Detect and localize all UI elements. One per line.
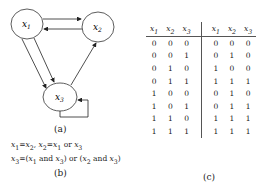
table-cell: 0 (240, 37, 256, 50)
table-cell: 1 (224, 50, 240, 63)
equation-line-2: x3=(x1 and x3) or (x2 and x3) (11, 154, 121, 165)
table-cell: 0 (240, 62, 256, 75)
header-left-x1: x1 (146, 22, 162, 37)
truth-table-container: x1 x2 x3 x1 x2 x3 0000000010100101000111… (146, 22, 256, 138)
table-cell: 0 (201, 100, 224, 113)
table-cell: 0 (178, 37, 201, 50)
table-cell: 1 (178, 75, 201, 88)
edge-x3-x2 (71, 43, 96, 85)
state-diagram: x1 x2 x3 (0, 0, 135, 130)
table-row: 000000 (146, 37, 256, 50)
truth-table: x1 x2 x3 x1 x2 x3 0000000010100101000111… (146, 22, 256, 138)
table-cell: 0 (240, 87, 256, 100)
table-cell: 0 (201, 37, 224, 50)
table-cell: 1 (146, 87, 162, 100)
table-cell: 1 (146, 100, 162, 113)
table-row: 011111 (146, 75, 256, 88)
table-cell: 0 (224, 37, 240, 50)
header-right-x2: x2 (224, 22, 240, 37)
table-cell: 1 (146, 125, 162, 138)
table-cell: 0 (201, 50, 224, 63)
table-cell: 1 (240, 75, 256, 88)
table-cell: 1 (178, 50, 201, 63)
table-cell: 0 (162, 87, 178, 100)
table-cell: 0 (240, 50, 256, 63)
table-cell: 0 (146, 62, 162, 75)
table-cell: 1 (224, 87, 240, 100)
table-cell: 1 (201, 62, 224, 75)
table-row: 100010 (146, 87, 256, 100)
table-cell: 1 (240, 125, 256, 138)
edge-x1-x3-a (22, 39, 46, 88)
table-cell: 1 (224, 75, 240, 88)
table-row: 111111 (146, 125, 256, 138)
table-cell: 0 (178, 113, 201, 126)
caption-a: (a) (54, 124, 66, 134)
table-cell: 0 (146, 75, 162, 88)
caption-c: (c) (203, 172, 215, 182)
table-cell: 1 (178, 125, 201, 138)
header-left-x2: x2 (162, 22, 178, 37)
table-cell: 1 (201, 113, 224, 126)
header-left-x3: x3 (178, 22, 201, 37)
table-cell: 1 (162, 62, 178, 75)
table-cell: 0 (146, 50, 162, 63)
table-cell: 1 (162, 75, 178, 88)
table-cell: 1 (224, 125, 240, 138)
table-cell: 1 (162, 113, 178, 126)
table-cell: 1 (162, 125, 178, 138)
table-cell: 1 (201, 125, 224, 138)
table-cell: 0 (178, 62, 201, 75)
caption-b: (b) (54, 168, 67, 178)
table-row: 101011 (146, 100, 256, 113)
table-cell: 0 (146, 37, 162, 50)
table-cell: 0 (162, 100, 178, 113)
table-cell: 0 (201, 87, 224, 100)
table-cell: 0 (178, 87, 201, 100)
header-right-x3: x3 (240, 22, 256, 37)
table-cell: 1 (178, 100, 201, 113)
table-cell: 0 (224, 62, 240, 75)
edge-x1-x3-b (34, 38, 54, 82)
table-cell: 1 (146, 113, 162, 126)
table-cell: 1 (201, 75, 224, 88)
table-cell: 1 (224, 100, 240, 113)
table-cell: 0 (162, 37, 178, 50)
table-row: 001010 (146, 50, 256, 63)
table-row: 010100 (146, 62, 256, 75)
table-cell: 0 (162, 50, 178, 63)
table-row: 110111 (146, 113, 256, 126)
table-cell: 1 (240, 100, 256, 113)
table-cell: 1 (224, 113, 240, 126)
header-right-x1: x1 (201, 22, 224, 37)
table-cell: 1 (240, 113, 256, 126)
equation-line-1: x1=x2, x2=x1 or x3 (11, 140, 82, 151)
